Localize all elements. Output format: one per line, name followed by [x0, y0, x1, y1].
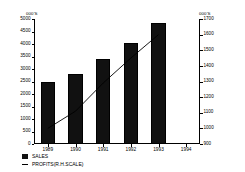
chart-legend: SALES PROFITS(R.H.SCALE)	[22, 152, 83, 168]
right-axis-tick-label: 1100	[204, 110, 214, 115]
right-axis-tick	[200, 35, 203, 36]
left-axis-tick-label: 3500	[20, 54, 30, 59]
right-axis-tick	[200, 66, 203, 67]
legend-item-profits: PROFITS(R.H.SCALE)	[22, 160, 83, 168]
right-axis-tick	[200, 113, 203, 114]
right-axis-tick-label: 1300	[204, 79, 214, 84]
left-axis-tick-label: 0	[28, 142, 31, 147]
left-axis-tick	[32, 144, 35, 145]
legend-label-profits: PROFITS(R.H.SCALE)	[32, 162, 83, 167]
right-axis-tick-label: 1700	[204, 17, 214, 22]
right-axis-tick	[200, 82, 203, 83]
right-axis-tick-label: 1500	[204, 48, 214, 53]
left-axis-tick-label: 2000	[20, 92, 30, 97]
right-axis-tick	[200, 97, 203, 98]
legend-label-sales: SALES	[32, 154, 48, 159]
left-axis-tick-label: 4500	[20, 29, 30, 34]
category-axis-label: 1992	[125, 148, 136, 153]
line-series-profits	[34, 19, 200, 144]
category-axis-label: 1993	[153, 148, 164, 153]
right-axis-tick-label: 1000	[204, 126, 214, 131]
left-axis-tick-label: 5000	[20, 17, 30, 22]
right-axis-tick-label: 1400	[204, 64, 214, 69]
left-axis-tick-label: 4000	[20, 42, 30, 47]
right-axis-tick	[200, 50, 203, 51]
category-axis-label: 1991	[98, 148, 109, 153]
left-axis-tick-label: 2500	[20, 79, 30, 84]
right-axis-tick	[200, 19, 203, 20]
chart-container: 000'S 000'S 0500100015002000250030003500…	[0, 0, 245, 172]
plot-area: 0500100015002000250030003500400045005000…	[34, 19, 200, 144]
profits-polyline	[48, 35, 159, 129]
category-axis-label: 1994	[181, 148, 192, 153]
right-axis-tick-label: 1600	[204, 32, 214, 37]
left-axis-tick-label: 1000	[20, 117, 30, 122]
legend-item-sales: SALES	[22, 152, 83, 160]
left-axis-tick-label: 3000	[20, 67, 30, 72]
legend-swatch-profits-icon	[22, 162, 28, 167]
left-axis-tick-label: 500	[23, 129, 31, 134]
right-axis-tick-label: 900	[204, 142, 212, 147]
right-axis-tick	[200, 128, 203, 129]
left-axis-tick-label: 1500	[20, 104, 30, 109]
right-axis-tick-label: 1200	[204, 95, 214, 100]
right-axis-tick	[200, 144, 203, 145]
legend-swatch-sales-icon	[22, 154, 28, 159]
